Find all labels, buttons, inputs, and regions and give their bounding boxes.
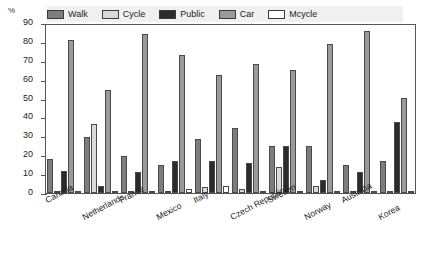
bar-cycle[interactable] <box>165 191 171 193</box>
y-axis-tick-label: 50 <box>23 94 33 103</box>
bar-group <box>46 25 83 193</box>
bar-car[interactable] <box>253 64 259 193</box>
legend-item-walk[interactable]: Walk <box>47 10 88 19</box>
legend-swatch-cycle <box>102 10 119 19</box>
y-axis-tick-label: 90 <box>23 18 33 27</box>
bar-walk[interactable] <box>84 137 90 193</box>
bar-car[interactable] <box>327 44 333 193</box>
bar-group <box>194 25 231 193</box>
bar-cycle[interactable] <box>91 124 97 193</box>
legend-item-public[interactable]: Public <box>159 10 205 19</box>
legend-label: Walk <box>68 10 88 19</box>
bar-car[interactable] <box>401 98 407 193</box>
bar-group <box>231 25 268 193</box>
y-axis-tick-label: 40 <box>23 112 33 121</box>
legend-label: Public <box>180 10 205 19</box>
chart-legend: WalkCyclePublicCarMcycle <box>47 6 403 22</box>
bar-public[interactable] <box>246 163 252 193</box>
bar-walk[interactable] <box>343 165 349 193</box>
bar-group <box>341 25 378 193</box>
legend-item-mcycle[interactable]: Mcycle <box>268 10 317 19</box>
bar-mcycle[interactable] <box>75 191 81 193</box>
bar-group <box>120 25 157 193</box>
legend-label: Mcycle <box>289 10 317 19</box>
legend-item-car[interactable]: Car <box>219 10 255 19</box>
bar-cycle[interactable] <box>313 186 319 193</box>
bar-car[interactable] <box>142 34 148 193</box>
bar-car[interactable] <box>364 31 370 193</box>
bar-group <box>83 25 120 193</box>
y-axis-tick-label: 20 <box>23 150 33 159</box>
bar-car[interactable] <box>179 55 185 193</box>
y-axis-tick-label: 10 <box>23 169 33 178</box>
bar-walk[interactable] <box>380 161 386 193</box>
bar-car[interactable] <box>68 40 74 193</box>
bar-cycle[interactable] <box>239 189 245 193</box>
y-axis-unit-label: % <box>8 6 15 15</box>
bar-group <box>304 25 341 193</box>
y-axis-tick-label: 80 <box>23 37 33 46</box>
bar-walk[interactable] <box>121 156 127 193</box>
bar-public[interactable] <box>394 122 400 193</box>
bar-mcycle[interactable] <box>408 191 414 193</box>
x-axis-label: Norway <box>303 200 333 221</box>
bar-group <box>378 25 415 193</box>
y-axis-tick-label: 60 <box>23 75 33 84</box>
bar-walk[interactable] <box>306 146 312 193</box>
bar-public[interactable] <box>98 186 104 193</box>
bar-mcycle[interactable] <box>223 186 229 193</box>
y-axis-tick-label: 70 <box>23 56 33 65</box>
bar-walk[interactable] <box>158 165 164 193</box>
bar-cycle[interactable] <box>387 191 393 193</box>
legend-swatch-car <box>219 10 236 19</box>
bar-car[interactable] <box>216 75 222 193</box>
bar-walk[interactable] <box>232 128 238 193</box>
y-axis-tick-label: 30 <box>23 131 33 140</box>
x-axis-label: Korea <box>377 203 401 222</box>
legend-swatch-public <box>159 10 176 19</box>
legend-label: Cycle <box>123 10 146 19</box>
legend-label: Car <box>240 10 255 19</box>
bar-walk[interactable] <box>195 139 201 193</box>
bar-mcycle[interactable] <box>371 191 377 193</box>
bar-public[interactable] <box>172 161 178 193</box>
y-axis-tick-label: 0 <box>28 188 33 197</box>
plot-area <box>45 24 416 194</box>
bar-group <box>157 25 194 193</box>
bar-walk[interactable] <box>47 159 53 193</box>
legend-swatch-walk <box>47 10 64 19</box>
bar-mcycle[interactable] <box>334 191 340 193</box>
legend-item-cycle[interactable]: Cycle <box>102 10 146 19</box>
y-axis: 0102030405060708090 <box>0 24 47 194</box>
bar-car[interactable] <box>105 90 111 193</box>
bar-public[interactable] <box>209 161 215 193</box>
x-axis-label: Mexico <box>155 201 183 222</box>
bar-mcycle[interactable] <box>297 191 303 193</box>
bar-walk[interactable] <box>269 146 275 193</box>
bar-mcycle[interactable] <box>186 189 192 193</box>
x-axis-labels: CanadaNetherlandsFranceMexicoItalyCzech … <box>45 194 416 255</box>
bar-mcycle[interactable] <box>149 191 155 193</box>
bar-public[interactable] <box>320 180 326 193</box>
legend-swatch-mcycle <box>268 10 285 19</box>
bar-group <box>267 25 304 193</box>
bar-car[interactable] <box>290 70 296 193</box>
bar-groups <box>46 25 415 193</box>
bar-chart: WalkCyclePublicCarMcycle % 0102030405060… <box>0 0 423 255</box>
